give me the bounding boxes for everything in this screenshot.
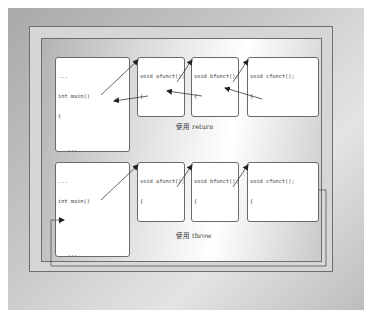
code-line: ... — [58, 146, 127, 152]
throw-cfunct-box: void cfunct(); { ... if(oops) throw "Hel… — [247, 162, 319, 222]
code-line: int main() — [58, 198, 127, 205]
return-cfunct-box: void cfunct(); { ... if(oops) throw "Hel… — [247, 57, 319, 117]
code-line: ... — [58, 178, 127, 185]
code-line: int main() — [58, 93, 127, 100]
code-line: { — [194, 198, 236, 205]
caption-throw: 使用 throw — [176, 230, 211, 240]
code-line: { — [250, 198, 316, 205]
code-line: ... — [58, 251, 127, 257]
code-line: { — [140, 93, 182, 100]
code-line: { — [140, 198, 182, 205]
return-main-box: ... int main() { ... try { afunct(); nex… — [55, 57, 130, 152]
code-line: void bfunct(); — [194, 178, 236, 185]
code-line: { — [58, 113, 127, 120]
caption-return: 使用 return — [176, 121, 213, 131]
code-line: void afunct(); — [140, 178, 182, 185]
throw-main-box: ... int main() { ... try { afunct(); nex… — [55, 162, 130, 257]
code-line: void cfunct(); — [250, 73, 316, 80]
code-line: void bfunct(); — [194, 73, 236, 80]
return-afunct-box: void afunct(); { ... bfunct(); ... retur… — [137, 57, 185, 117]
code-line: void afunct(); — [140, 73, 182, 80]
code-line: { — [194, 93, 236, 100]
return-bfunct-box: void bfunct(); { ... cfunct(); ... retur… — [191, 57, 239, 117]
code-line: { — [250, 93, 316, 100]
throw-afunct-box: void afunct(); { ... bfunct(); ... retur… — [137, 162, 185, 222]
code-line: { — [58, 218, 127, 225]
throw-bfunct-box: void bfunct(); { ... cfunct(); ... retur… — [191, 162, 239, 222]
code-line: ... — [58, 73, 127, 80]
code-line: void cfunct(); — [250, 178, 316, 185]
